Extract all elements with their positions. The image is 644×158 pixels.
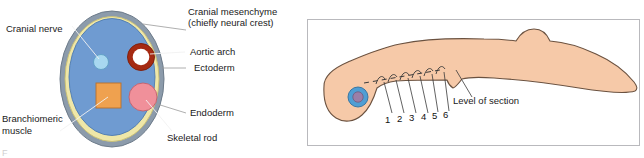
arch-number-6: 6 xyxy=(443,109,448,120)
arch-number-5: 5 xyxy=(432,110,437,121)
label-branchiomeric-line1: Branchiomeric xyxy=(2,113,63,125)
cranial-nerve-structure xyxy=(94,55,109,70)
label-aortic-arch: Aortic arch xyxy=(190,46,235,58)
skeletal-rod-structure xyxy=(129,83,157,111)
label-cranial-mesenchyme-line1: Cranial mesenchyme xyxy=(188,6,277,18)
arch-number-1: 1 xyxy=(385,114,390,125)
cranial-mesenchyme-core xyxy=(69,19,155,136)
leader-cranial-mesenchyme xyxy=(143,24,186,30)
label-skeletal-rod: Skeletal rod xyxy=(167,132,217,144)
label-level-of-section: Level of section xyxy=(453,95,519,107)
label-endoderm: Endoderm xyxy=(190,107,234,119)
figure-root: Cranial nerve Cranial mesenchyme (chiefl… xyxy=(0,0,644,158)
label-cranial-mesenchyme-line2: (chiefly neural crest) xyxy=(188,17,274,29)
label-cranial-nerve: Cranial nerve xyxy=(6,23,63,35)
branchiomeric-muscle-structure xyxy=(96,83,121,108)
label-branchiomeric-line2: muscle xyxy=(2,125,32,137)
label-ectoderm: Ectoderm xyxy=(194,62,235,74)
leader-endoderm xyxy=(157,104,186,113)
caption-stub: F xyxy=(2,148,8,158)
embryo-svg xyxy=(304,0,644,158)
arch-number-4: 4 xyxy=(421,111,426,122)
arch-number-3: 3 xyxy=(409,112,414,123)
embryo-body xyxy=(324,29,637,121)
arch-number-2: 2 xyxy=(397,113,402,124)
aortic-arch-lumen xyxy=(133,49,150,66)
eye-inner xyxy=(353,92,363,102)
